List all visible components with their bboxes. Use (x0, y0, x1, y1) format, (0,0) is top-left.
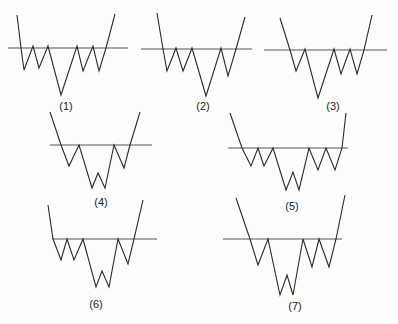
price-path (280, 15, 372, 98)
pattern-label-1: (1) (59, 100, 72, 112)
pattern-5 (228, 113, 348, 190)
pattern-diagram (0, 0, 398, 324)
price-path (50, 112, 140, 188)
pattern-4 (50, 112, 152, 188)
diagram-canvas: (1) (2) (3) (4) (5) (6) (7) (0, 0, 398, 324)
pattern-label-2: (2) (196, 100, 209, 112)
pattern-label-5: (5) (285, 200, 298, 212)
price-path (17, 14, 115, 95)
pattern-label-7: (7) (288, 300, 301, 312)
pattern-2 (141, 13, 252, 96)
pattern-label-4: (4) (94, 196, 107, 208)
pattern-label-3: (3) (326, 100, 339, 112)
pattern-7 (223, 195, 345, 295)
price-path (157, 13, 245, 96)
pattern-label-6: (6) (89, 298, 102, 310)
pattern-3 (264, 15, 387, 98)
price-path (48, 200, 143, 287)
pattern-1 (8, 14, 128, 95)
price-path (230, 113, 346, 190)
pattern-6 (48, 200, 157, 287)
